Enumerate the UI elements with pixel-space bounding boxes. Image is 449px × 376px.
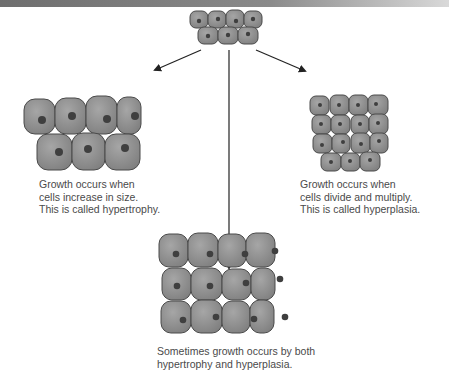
arrow-to-hypertrophy [155, 50, 201, 70]
hyperplasia-cell-cluster [310, 95, 388, 171]
hyperplasia-caption-line-2: cells divide and multiply. [300, 191, 420, 204]
hyperplasia-caption-line-3: This is called hyperplasia. [300, 203, 420, 216]
hyperplasia-caption: Growth occurs when cells divide and mult… [300, 178, 420, 216]
hypertrophy-caption-line-1: Growth occurs when [39, 178, 160, 191]
hyperplasia-caption-line-1: Growth occurs when [300, 178, 420, 191]
both-caption-line-1: Sometimes growth occurs by both [157, 345, 315, 358]
hypertrophy-caption-line-2: cells increase in size. [39, 191, 160, 204]
arrow-to-hyperplasia [256, 50, 305, 71]
both-caption: Sometimes growth occurs by both hypertro… [157, 345, 315, 370]
original-cell-cluster [190, 10, 262, 44]
hypertrophy-caption-line-3: This is called hypertrophy. [39, 203, 160, 216]
hypertrophy-hyperplasia-cell-cluster [159, 233, 288, 333]
hypertrophy-caption: Growth occurs when cells increase in siz… [39, 178, 160, 216]
hypertrophy-cell-cluster [24, 96, 141, 170]
both-caption-line-2: hypertrophy and hyperplasia. [157, 358, 315, 371]
